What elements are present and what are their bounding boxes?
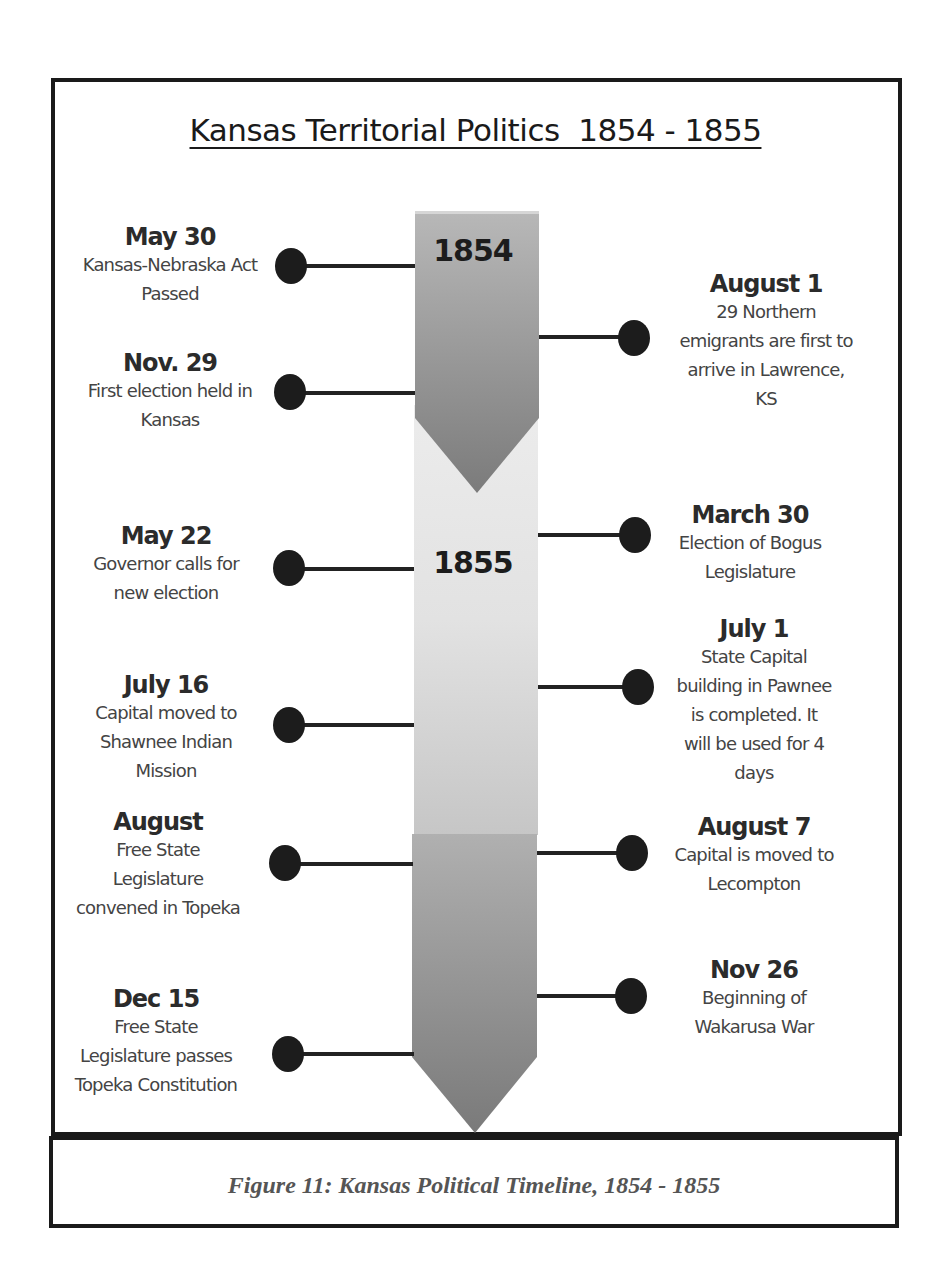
event-description: Governor calls for new election [56,549,276,607]
event-dot [618,320,650,356]
year-label-1854: 1854 [410,233,536,268]
event-august-1855: August Free State Legislature convened i… [48,809,268,922]
event-date: July 16 [56,672,276,698]
event-date: July 1 [644,616,864,642]
event-date: Nov 26 [644,957,864,983]
event-august-7-1855: August 7 Capital is moved to Lecompton [644,814,864,898]
connector-line [290,1052,414,1056]
event-description: State Capital building in Pawnee is comp… [644,642,864,787]
event-nov-26-1855: Nov 26 Beginning of Wakarusa War [644,957,864,1041]
event-date: August 7 [644,814,864,840]
event-july-16-1855: July 16 Capital moved to Shawnee Indian … [56,672,276,785]
event-description: Capital is moved to Lecompton [644,840,864,898]
event-date: Nov. 29 [60,350,280,376]
event-date: May 22 [56,523,276,549]
arrow-1855 [412,834,537,1133]
event-date: August 1 [656,271,876,297]
event-dot [269,845,301,881]
event-dot [615,978,647,1014]
event-description: Beginning of Wakarusa War [644,983,864,1041]
event-description: First election held in Kansas [60,376,280,434]
connector-line [290,567,414,571]
year-label-1855: 1855 [410,545,536,580]
event-dot [273,550,305,586]
figure-caption: Figure 11: Kansas Political Timeline, 18… [49,1172,899,1199]
event-description: Capital moved to Shawnee Indian Mission [56,698,276,785]
event-dot [272,1036,304,1072]
event-date: May 30 [60,224,280,250]
event-may-30-1854: May 30 Kansas-Nebraska Act Passed [60,224,280,308]
event-august-1-1854: August 1 29 Northern emigrants are first… [656,271,876,413]
event-description: Free State Legislature passes Topeka Con… [46,1012,266,1099]
event-date: Dec 15 [46,986,266,1012]
event-july-1-1855: July 1 State Capital building in Pawnee … [644,616,864,787]
event-dec-15-1855: Dec 15 Free State Legislature passes Top… [46,986,266,1099]
event-may-22-1855: May 22 Governor calls for new election [56,523,276,607]
connector-line [290,723,414,727]
event-description: Kansas-Nebraska Act Passed [60,250,280,308]
event-dot [273,707,305,743]
event-date: August [48,809,268,835]
connector-line [292,391,415,395]
connector-line [292,264,415,268]
event-march-30-1855: March 30 Election of Bogus Legislature [640,502,860,586]
event-description: Free State Legislature convened in Topek… [48,835,268,922]
event-date: March 30 [640,502,860,528]
event-description: Election of Bogus Legislature [640,528,860,586]
event-nov-29-1854: Nov. 29 First election held in Kansas [60,350,280,434]
event-description: 29 Northern emigrants are first to arriv… [656,297,876,413]
connector-line [287,862,413,866]
